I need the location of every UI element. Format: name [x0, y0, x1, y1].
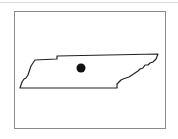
state-outline: [20, 54, 158, 88]
tennessee-map: [0, 0, 178, 139]
location-marker-icon: [77, 64, 86, 73]
